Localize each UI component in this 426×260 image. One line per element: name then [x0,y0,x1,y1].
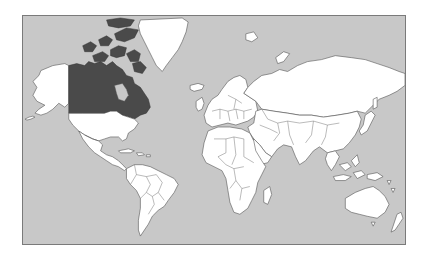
world-map [22,15,406,245]
world-map-svg [23,16,405,244]
region-sakhalin [373,97,377,109]
